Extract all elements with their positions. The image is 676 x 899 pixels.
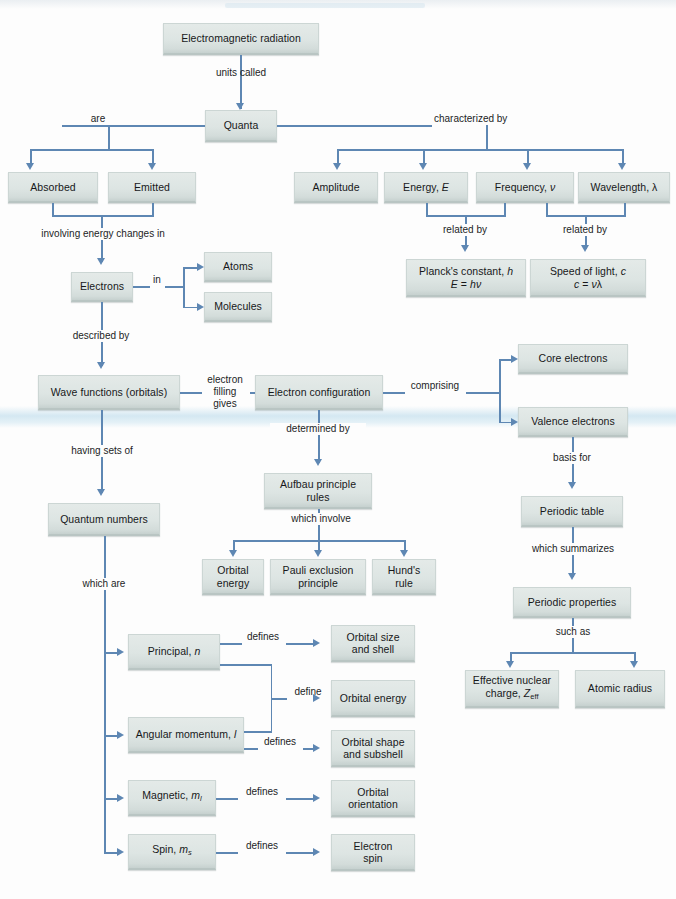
node-quantum-numbers[interactable]: Quantum numbers xyxy=(48,503,160,536)
node-wave-functions[interactable]: Wave functions (orbitals) xyxy=(38,375,180,410)
node-plancks-constant[interactable]: Planck's constant, h E = hν xyxy=(406,259,526,297)
edge-label-line2: filling xyxy=(214,386,237,397)
connector-are-drop xyxy=(108,125,110,150)
edge-label-having-sets-of: having sets of xyxy=(54,445,150,457)
node-label-line2: and shell xyxy=(352,643,394,656)
arrowhead-energy xyxy=(419,163,427,170)
edge-label-which-involve: which involve xyxy=(278,513,364,525)
arrowhead-orbital-energy xyxy=(313,694,320,702)
node-label: Amplitude xyxy=(312,181,359,194)
page-top-text-remnant xyxy=(225,3,425,8)
node-label: Wavelength, λ xyxy=(591,181,658,194)
node-angular-momentum[interactable]: Angular momentum, l xyxy=(128,717,244,753)
node-principal[interactable]: Principal, n xyxy=(128,634,220,670)
node-pauli-exclusion-principle[interactable]: Pauli exclusion principle xyxy=(270,559,366,595)
node-label: Orbital energy xyxy=(340,692,407,705)
node-core-electrons[interactable]: Core electrons xyxy=(518,344,628,374)
edge-label-which-are: which are xyxy=(65,578,143,590)
node-orbital-shape-and-subshell[interactable]: Orbital shape and subshell xyxy=(331,730,415,767)
edge-label-units-called: units called xyxy=(186,67,296,79)
arrowhead-orbital-orientation xyxy=(313,794,320,802)
arrowhead-atoms xyxy=(197,263,204,271)
connector-principal-defines-a xyxy=(220,643,242,645)
node-spin[interactable]: Spin, ms xyxy=(128,834,216,870)
node-label-line2: spin xyxy=(363,852,382,865)
node-energy[interactable]: Energy, E xyxy=(384,172,468,203)
arrowhead-absorbed xyxy=(26,163,34,170)
node-atomic-radius[interactable]: Atomic radius xyxy=(575,670,665,708)
connector-such-as-bus xyxy=(510,652,636,654)
node-orbital-size-and-shell[interactable]: Orbital size and shell xyxy=(331,625,415,662)
node-electron-spin[interactable]: Electron spin xyxy=(331,834,415,871)
connector-principal-join xyxy=(220,664,272,666)
arrowhead-angular-momentum xyxy=(117,731,124,739)
connector-magnetic-defines-b xyxy=(286,798,316,800)
edge-label-described-by: described by xyxy=(51,330,151,342)
node-absorbed[interactable]: Absorbed xyxy=(8,172,98,203)
node-orbital-orientation[interactable]: Orbital orientation xyxy=(331,780,415,817)
node-label-line1: Orbital shape xyxy=(341,736,404,749)
node-label-line1: Planck's constant, h xyxy=(419,265,513,278)
node-label: Periodic properties xyxy=(528,596,617,609)
node-magnetic[interactable]: Magnetic, ml xyxy=(128,780,216,816)
node-label: Emitted xyxy=(134,181,170,194)
node-label-line2: rules xyxy=(306,491,329,504)
arrowhead-orbital-size xyxy=(313,639,320,647)
arrowhead-atomic-radius xyxy=(630,661,638,668)
node-speed-of-light[interactable]: Speed of light, c c = νλ xyxy=(530,259,646,297)
arrowhead-orbital-energy-rule xyxy=(229,550,237,557)
node-label: Energy, E xyxy=(403,181,449,194)
connector-angular-branch xyxy=(104,735,118,737)
node-label-line1: Orbital xyxy=(217,564,248,577)
edge-label-defines-1: defines xyxy=(236,631,290,643)
connector-angular-defines-a xyxy=(244,748,258,750)
node-aufbau-principle-rules[interactable]: Aufbau principle rules xyxy=(264,473,372,509)
node-effective-nuclear-charge[interactable]: Effective nuclear charge, Zeff xyxy=(465,670,559,708)
node-label-line1: Effective nuclear xyxy=(473,674,551,687)
node-label: Frequency, ν xyxy=(495,181,556,194)
node-label: Spin, ms xyxy=(152,843,192,860)
edge-label-such-as: such as xyxy=(540,626,606,638)
node-emitted[interactable]: Emitted xyxy=(108,172,196,203)
node-label: Atomic radius xyxy=(588,682,652,695)
connector-ec-aufbau xyxy=(318,410,320,463)
node-atoms[interactable]: Atoms xyxy=(204,252,272,282)
arrowhead-electron-spin xyxy=(313,848,320,856)
node-periodic-table[interactable]: Periodic table xyxy=(521,496,623,527)
node-electrons[interactable]: Electrons xyxy=(71,272,133,302)
arrowhead-periodic-table xyxy=(568,482,576,489)
connector-magnetic-defines-a xyxy=(216,798,238,800)
connector-characterized-bus xyxy=(337,149,622,151)
connector-magnetic-branch xyxy=(104,798,118,800)
node-orbital-energy[interactable]: Orbital energy xyxy=(331,680,415,717)
node-electromagnetic-radiation[interactable]: Electromagnetic radiation xyxy=(163,23,319,55)
node-electron-configuration[interactable]: Electron configuration xyxy=(255,375,383,410)
node-label-line2: orientation xyxy=(348,798,398,811)
connector-spin-branch xyxy=(104,852,118,854)
node-hunds-rule[interactable]: Hund's rule xyxy=(372,559,436,595)
node-label-line2: and subshell xyxy=(343,748,403,761)
node-label: Angular momentum, l xyxy=(136,728,237,741)
node-label-line2: energy xyxy=(217,577,249,590)
node-orbital-energy-rule[interactable]: Orbital energy xyxy=(202,559,264,595)
edge-label-basis-for: basis for xyxy=(532,452,612,464)
connector-electrons-in-b xyxy=(165,286,183,288)
node-wavelength[interactable]: Wavelength, λ xyxy=(578,172,670,203)
node-label: Atoms xyxy=(223,260,253,273)
arrowhead-effective-nuclear-charge xyxy=(506,661,514,668)
node-label-line2: principle xyxy=(298,577,338,590)
connector-angular-join xyxy=(244,731,272,733)
edge-label-define: define xyxy=(283,686,333,698)
node-frequency[interactable]: Frequency, ν xyxy=(476,172,574,203)
node-label: Principal, n xyxy=(148,645,201,658)
node-label: Electrons xyxy=(80,280,124,293)
node-amplitude[interactable]: Amplitude xyxy=(294,172,378,203)
connector-in-bus xyxy=(183,267,185,308)
node-label: Valence electrons xyxy=(531,415,615,428)
connector-principal-branch xyxy=(104,652,118,654)
node-periodic-properties[interactable]: Periodic properties xyxy=(513,587,631,618)
node-molecules[interactable]: Molecules xyxy=(204,292,272,322)
node-quanta[interactable]: Quanta xyxy=(205,110,277,142)
node-label: Quantum numbers xyxy=(60,513,148,526)
node-valence-electrons[interactable]: Valence electrons xyxy=(518,407,628,437)
